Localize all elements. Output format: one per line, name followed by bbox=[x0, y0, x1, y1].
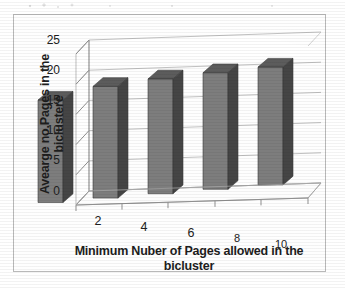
x-tick-label-8: 8 bbox=[225, 232, 249, 244]
x-axis-title-line2: bicluster bbox=[164, 259, 214, 273]
x-axis-title-line1: Minimum Nuber of Pages allowed in the bbox=[75, 244, 304, 258]
scan-noise-band bbox=[0, 0, 345, 14]
x-tick-label-6: 6 bbox=[179, 226, 203, 240]
chart-frame: 25 20 15 10 5 0 2 4 6 8 10 Avearge no.Pa… bbox=[13, 14, 326, 272]
y-axis-title: Avearge no.Pages in the biclustere bbox=[38, 24, 66, 224]
bar-4 bbox=[203, 64, 238, 189]
x-tick-label-4: 4 bbox=[132, 220, 156, 234]
bar-5 bbox=[258, 58, 293, 184]
bar-2 bbox=[93, 78, 128, 198]
bar-3 bbox=[148, 70, 183, 194]
x-tick-label-2: 2 bbox=[86, 214, 110, 228]
x-axis-title: Minimum Nuber of Pages allowed in the bi… bbox=[44, 244, 334, 274]
